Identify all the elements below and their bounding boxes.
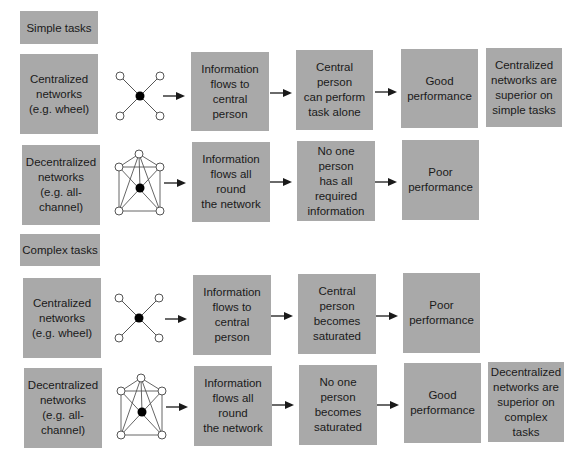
- arrow-icon: [376, 311, 398, 321]
- arrow-icon: [375, 87, 397, 97]
- arrow-icon: [271, 311, 293, 321]
- information-flow-box: Information flows all round the network: [194, 366, 272, 446]
- no-one-person-box: No one person has all required informati…: [297, 141, 375, 221]
- arrow-icon: [272, 400, 294, 410]
- no-one-person-box: No one person becomes saturated: [299, 365, 377, 445]
- arrow-icon: [165, 314, 187, 324]
- network-type-box: Centralized networks (e.g. wheel): [20, 54, 98, 134]
- central-person-box: Central person can perform task alone: [296, 50, 373, 130]
- performance-box: Good performance: [404, 363, 481, 443]
- central-person-box: Central person becomes saturated: [298, 274, 376, 354]
- arrow-icon: [377, 400, 399, 410]
- arrow-icon: [270, 177, 292, 187]
- performance-box: Poor performance: [402, 140, 479, 220]
- arrow-icon: [166, 402, 188, 412]
- performance-box: Poor performance: [403, 273, 480, 353]
- information-flow-box: Information flows to central person: [193, 275, 271, 355]
- network-type-box: Decentralized networks (e.g. all- channe…: [22, 145, 100, 225]
- section-label-complex-tasks: Complex tasks: [20, 234, 100, 266]
- all-channel-network-icon: [114, 372, 170, 442]
- arrow-icon: [270, 88, 292, 98]
- arrow-icon: [163, 91, 185, 101]
- performance-box: Good performance: [401, 49, 478, 128]
- wheel-network-icon: [113, 292, 165, 344]
- network-type-box: Centralized networks (e.g. wheel): [23, 278, 101, 358]
- all-channel-network-icon: [112, 148, 168, 218]
- conclusion-box: Decentralized networks are superior on c…: [488, 362, 564, 442]
- conclusion-box: Centralized networks are superior on sim…: [486, 48, 562, 127]
- information-flow-box: Information flows all round the network: [192, 142, 270, 222]
- arrow-icon: [164, 178, 186, 188]
- network-type-box: Decentralized networks (e.g. all- channe…: [24, 368, 102, 448]
- arrow-icon: [375, 177, 397, 187]
- information-flow-box: Information flows to central person: [191, 52, 269, 131]
- wheel-network-icon: [114, 70, 166, 122]
- section-label-simple-tasks: Simple tasks: [20, 11, 98, 44]
